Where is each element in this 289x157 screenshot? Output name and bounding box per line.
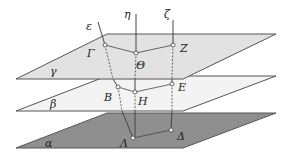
point-theta	[134, 51, 138, 55]
point-b	[116, 85, 120, 89]
plane-label-beta: β	[49, 98, 56, 111]
point-delta	[169, 128, 173, 132]
line-label-eta: η	[124, 8, 131, 21]
parallel-planes-diagram: γ β α ε η ζ Γ Θ Z B H E Λ Δ	[0, 0, 289, 157]
point-h	[133, 90, 137, 94]
point-label-b: B	[103, 91, 112, 104]
point-label-gamma: Γ	[86, 47, 95, 60]
point-label-h: H	[137, 95, 148, 108]
point-gamma	[103, 43, 107, 47]
point-label-theta: Θ	[136, 59, 145, 72]
point-e	[170, 82, 174, 86]
plane-label-gamma: γ	[50, 65, 57, 78]
point-lambda	[131, 136, 135, 140]
plane-alpha	[16, 113, 276, 148]
point-label-lambda: Λ	[119, 137, 128, 150]
point-label-e: E	[177, 81, 186, 94]
point-z	[171, 43, 175, 47]
point-label-delta: Δ	[176, 130, 185, 143]
line-label-epsilon: ε	[86, 20, 92, 33]
point-label-z: Z	[179, 42, 188, 55]
line-label-zeta: ζ	[164, 8, 171, 21]
plane-label-alpha: α	[45, 137, 53, 150]
